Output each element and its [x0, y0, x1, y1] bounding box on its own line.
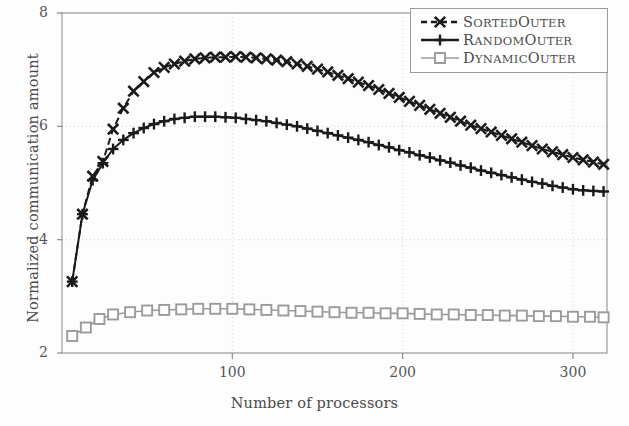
- x-tick-label: 300: [548, 364, 598, 380]
- series-dynamicouter: [67, 304, 608, 341]
- legend-sample-x: [417, 13, 463, 31]
- y-tick-label: 8: [18, 4, 48, 20]
- x-tick-label: 100: [207, 364, 257, 380]
- legend-label: RANDOMOUTER: [463, 32, 572, 48]
- legend-item-dynamicouter: DYNAMICOUTER: [417, 49, 601, 67]
- legend-label: SORTEDOUTER: [463, 14, 566, 30]
- y-axis-title: Normalized communication amount: [25, 23, 41, 353]
- legend-item-sortedouter: SORTEDOUTER: [417, 13, 601, 31]
- legend-item-randomouter: RANDOMOUTER: [417, 31, 601, 49]
- legend-sample-plus: [417, 31, 463, 49]
- series-sortedouter: [67, 51, 609, 286]
- chart-legend: SORTEDOUTERRANDOMOUTERDYNAMICOUTER: [410, 8, 608, 73]
- chart-figure: 8642 100200300 Number of processors Norm…: [0, 0, 629, 426]
- legend-sample-square: [417, 49, 463, 67]
- data-series: [67, 51, 609, 341]
- x-axis-title: Number of processors: [0, 395, 629, 411]
- legend-label: DYNAMICOUTER: [463, 50, 576, 66]
- x-tick-label: 200: [378, 364, 428, 380]
